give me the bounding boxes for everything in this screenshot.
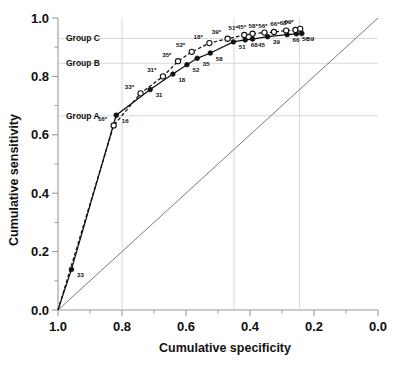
point-label: 16	[122, 117, 129, 124]
x-tick-label: 0.2	[305, 319, 323, 334]
group-label: Group A	[66, 111, 100, 121]
point-label: 39	[273, 38, 280, 45]
y-tick-label: 0.0	[31, 303, 49, 318]
point-label: 31	[156, 91, 163, 98]
point-label: 31*	[147, 66, 157, 73]
marker-dashed-curve	[298, 26, 303, 31]
marker-dashed-curve	[250, 31, 255, 36]
point-label: 18*	[194, 33, 204, 40]
marker-dashed-curve	[284, 28, 289, 33]
x-tick-label: 0.0	[369, 319, 387, 334]
x-tick-label: 1.0	[49, 319, 67, 334]
y-tick-label: 0.2	[31, 244, 49, 259]
point-label: 52*	[176, 41, 186, 48]
marker-dashed-curve	[160, 74, 165, 79]
x-axis-title: Cumulative specificity	[159, 341, 291, 355]
y-tick-label: 1.0	[31, 11, 49, 26]
marker-solid-curve	[170, 72, 175, 77]
point-label: 33	[77, 271, 84, 278]
group-label: Group B	[66, 58, 100, 68]
marker-dashed-curve	[262, 30, 267, 35]
marker-solid-curve	[231, 40, 236, 45]
point-label: 59*	[284, 18, 294, 25]
point-label: 33*	[125, 83, 135, 90]
marker-dashed-curve	[138, 91, 143, 96]
point-label: 58*	[249, 22, 259, 29]
x-tick-label: 0.6	[177, 319, 195, 334]
x-tick-label: 0.4	[241, 319, 260, 334]
marker-dashed-curve	[207, 41, 212, 46]
point-label: 68	[251, 41, 258, 48]
marker-solid-curve	[195, 56, 200, 61]
marker-solid-curve	[148, 87, 153, 92]
marker-solid-curve	[69, 267, 74, 272]
roc-chart-figure: 331631185235585168453966565916*33*31*35*…	[0, 0, 398, 366]
roc-chart-svg: 331631185235585168453966565916*33*31*35*…	[0, 0, 398, 366]
point-label: 58	[216, 55, 223, 62]
marker-dashed-curve	[242, 32, 247, 37]
y-tick-label: 0.6	[31, 127, 49, 142]
point-label: 45*	[237, 23, 247, 30]
point-label: 56*	[258, 22, 268, 29]
y-tick-label: 0.8	[31, 69, 49, 84]
point-label: 51	[239, 43, 246, 50]
marker-solid-curve	[243, 38, 248, 43]
x-tick-label: 0.8	[113, 319, 131, 334]
marker-solid-curve	[185, 62, 190, 67]
point-label: 59	[307, 35, 314, 42]
marker-dashed-curve	[175, 59, 180, 64]
marker-dashed-curve	[225, 36, 230, 41]
y-tick-label: 0.4	[31, 186, 50, 201]
point-label: 35*	[162, 51, 172, 58]
y-axis-title: Cumulative sensitivity	[7, 114, 21, 246]
point-label: 52	[192, 66, 199, 73]
marker-solid-curve	[208, 51, 213, 56]
point-label: 18	[178, 76, 185, 83]
point-label: 66	[293, 36, 300, 43]
marker-dashed-curve	[271, 29, 276, 34]
group-label: Group C	[66, 33, 100, 43]
point-label: 39*	[212, 28, 222, 35]
point-label: 35	[203, 60, 210, 67]
marker-dashed-curve	[189, 49, 194, 54]
point-label: 45	[258, 41, 265, 48]
marker-solid-curve	[114, 113, 119, 118]
marker-dashed-curve	[111, 123, 116, 128]
